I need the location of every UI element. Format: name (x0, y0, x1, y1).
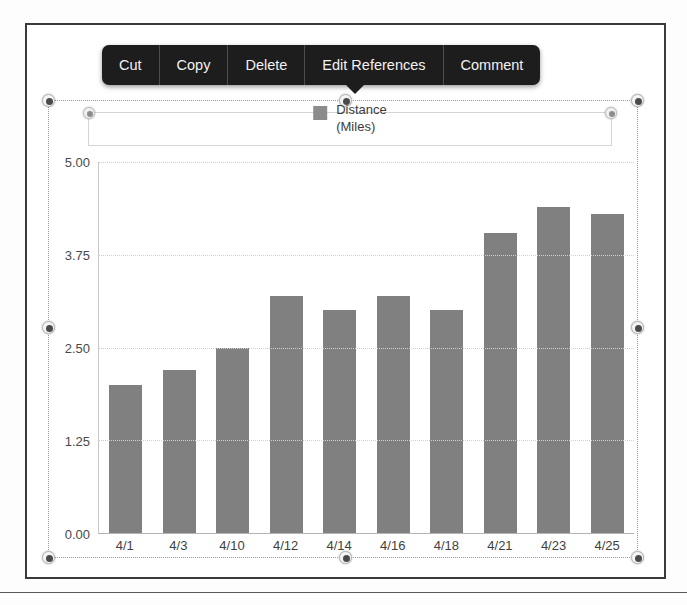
x-axis-tick-label: 4/10 (205, 538, 259, 553)
bar-4/16[interactable] (377, 296, 410, 533)
menu-item-comment[interactable]: Comment (444, 45, 541, 85)
x-axis-tick-label: 4/14 (312, 538, 366, 553)
chart-plot: 0.001.252.503.755.00 4/14/34/104/124/144… (48, 162, 638, 558)
x-axis-tick-label: 4/12 (259, 538, 313, 553)
y-axis: 0.001.252.503.755.00 (48, 162, 94, 534)
resize-handle-top-right[interactable] (631, 94, 644, 107)
y-axis-tick-label: 2.50 (65, 341, 90, 356)
y-axis-tick-label: 0.00 (65, 527, 90, 542)
x-axis-tick-label: 4/21 (473, 538, 527, 553)
x-axis-tick-label: 4/16 (366, 538, 420, 553)
chart-legend[interactable]: Distance (Miles) (88, 112, 612, 146)
x-axis: 4/14/34/104/124/144/164/184/214/234/25 (98, 538, 634, 553)
gridline (99, 255, 634, 256)
page-separator (0, 592, 687, 593)
x-axis-tick-label: 4/1 (98, 538, 152, 553)
plot-area[interactable] (98, 162, 634, 534)
menu-item-copy[interactable]: Copy (160, 45, 229, 85)
bar-4/14[interactable] (323, 310, 356, 533)
y-axis-tick-label: 3.75 (65, 248, 90, 263)
context-menu[interactable]: CutCopyDeleteEdit ReferencesComment (102, 45, 540, 85)
legend-label-line1: Distance (336, 101, 387, 118)
gridline (99, 162, 634, 163)
resize-handle-top-left[interactable] (42, 94, 55, 107)
x-axis-tick-label: 4/18 (420, 538, 474, 553)
legend-label-distance: Distance (Miles) (336, 101, 387, 135)
y-axis-tick-label: 5.00 (65, 155, 90, 170)
bar-4/25[interactable] (591, 214, 624, 533)
legend-label-line2: (Miles) (336, 118, 387, 135)
bar-4/1[interactable] (109, 385, 142, 533)
menu-item-delete[interactable]: Delete (228, 45, 305, 85)
x-axis-tick-label: 4/23 (527, 538, 581, 553)
x-axis-tick-label: 4/3 (152, 538, 206, 553)
menu-item-edit-references[interactable]: Edit References (305, 45, 443, 85)
legend-swatch-distance (313, 106, 327, 120)
legend-handle-top-left[interactable] (83, 107, 95, 119)
bar-4/12[interactable] (270, 296, 303, 533)
menu-item-cut[interactable]: Cut (102, 45, 160, 85)
chart-object[interactable]: Distance (Miles) 0.001.252.503.755.00 4/… (48, 100, 638, 558)
gridline (99, 348, 634, 349)
legend-handle-top-right[interactable] (605, 107, 617, 119)
gridline (99, 533, 634, 534)
x-axis-tick-label: 4/25 (580, 538, 634, 553)
bar-4/21[interactable] (484, 233, 517, 534)
y-axis-tick-label: 1.25 (65, 434, 90, 449)
legend-entry: Distance (Miles) (313, 101, 387, 135)
gridline (99, 440, 634, 441)
page-canvas: Distance (Miles) 0.001.252.503.755.00 4/… (0, 0, 687, 605)
bar-4/18[interactable] (430, 310, 463, 533)
context-menu-pointer (345, 84, 365, 94)
bar-4/3[interactable] (163, 370, 196, 533)
